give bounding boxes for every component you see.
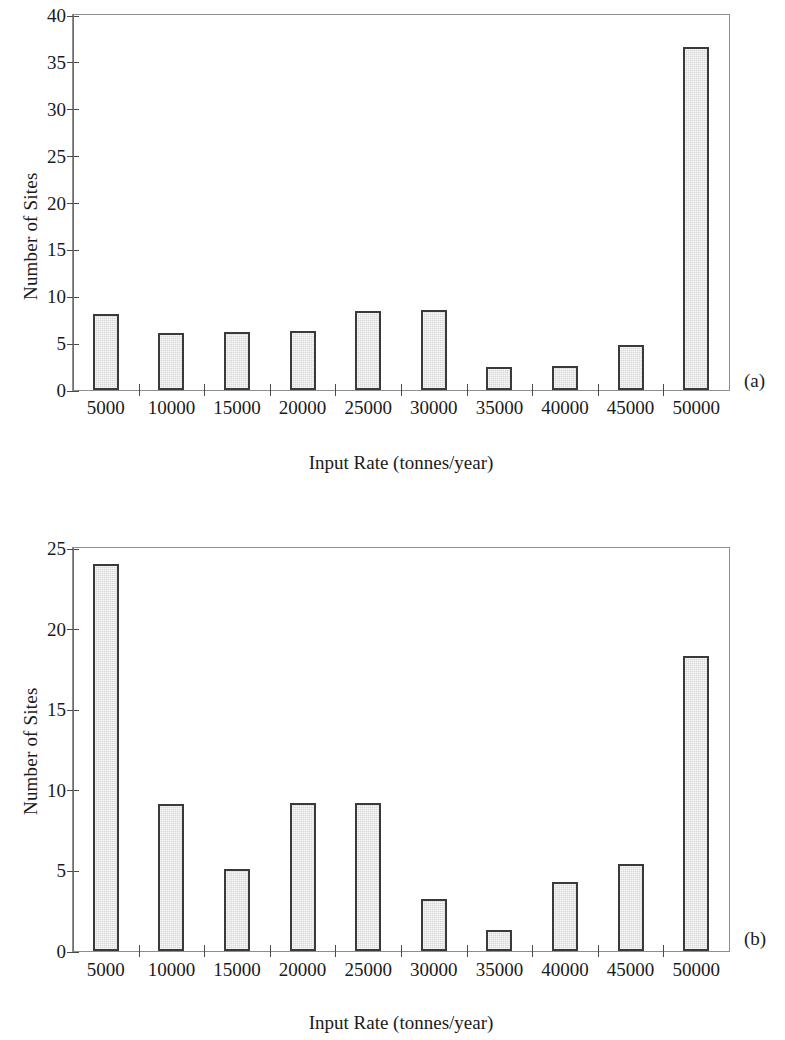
bar [683, 656, 709, 951]
bar [421, 899, 447, 951]
y-tick-mark [67, 391, 79, 392]
y-axis-tick-labels-a: 0510152025303540 [22, 14, 66, 391]
bar-series-a [73, 15, 729, 390]
y-tick-mark [67, 952, 79, 953]
x-tick-mark [335, 945, 336, 957]
bar [552, 366, 578, 390]
y-tick-label: 40 [47, 6, 66, 25]
y-axis-line [73, 15, 74, 390]
y-tick-label: 35 [47, 52, 66, 71]
y-tick-label: 30 [47, 99, 66, 118]
x-tick-label: 20000 [279, 960, 327, 979]
x-tick-label: 40000 [541, 960, 589, 979]
x-tick-label: 45000 [607, 398, 655, 417]
y-tick-label: 20 [47, 193, 66, 212]
x-axis-title-a: Input Rate (tonnes/year) [309, 452, 494, 474]
bar [683, 47, 709, 390]
y-tick-label: 15 [47, 240, 66, 259]
bar [224, 332, 250, 390]
bar [618, 864, 644, 951]
bar [486, 367, 512, 390]
x-tick-mark [467, 945, 468, 957]
bar [355, 311, 381, 390]
x-tick-mark [663, 384, 664, 396]
bar [486, 930, 512, 951]
x-tick-label: 50000 [672, 960, 720, 979]
plot-area-b [72, 547, 730, 952]
panel-a: Number of Sites 0510152025303540 5000100… [0, 0, 785, 500]
y-tick-label: 10 [47, 780, 66, 799]
panel-label-a: (a) [744, 370, 765, 392]
x-tick-label: 10000 [148, 960, 196, 979]
x-tick-label: 10000 [148, 398, 196, 417]
panel-b: Number of Sites 0510152025 5000100001500… [0, 520, 785, 1040]
y-tick-label: 10 [47, 287, 66, 306]
y-tick-label: 5 [57, 861, 67, 880]
x-axis-title-b: Input Rate (tonnes/year) [309, 1012, 494, 1034]
x-tick-mark [532, 384, 533, 396]
x-tick-mark [532, 945, 533, 957]
y-axis-line [73, 548, 74, 951]
x-tick-mark [139, 384, 140, 396]
panel-label-b: (b) [744, 928, 766, 950]
bar [355, 803, 381, 951]
y-tick-label: 15 [47, 700, 66, 719]
x-tick-label: 15000 [213, 398, 261, 417]
figure-two-histograms: Number of Sites 0510152025303540 5000100… [0, 0, 785, 1040]
x-tick-mark [467, 384, 468, 396]
x-tick-mark [335, 384, 336, 396]
x-tick-label: 5000 [87, 960, 125, 979]
bar [290, 331, 316, 390]
x-tick-label: 30000 [410, 398, 458, 417]
plot-area-a [72, 14, 730, 391]
x-tick-label: 45000 [607, 960, 655, 979]
y-tick-label: 20 [47, 619, 66, 638]
y-tick-label: 5 [57, 334, 67, 353]
x-tick-mark [598, 945, 599, 957]
x-tick-label: 20000 [279, 398, 327, 417]
x-tick-mark [401, 945, 402, 957]
x-tick-label: 25000 [344, 398, 392, 417]
bar [93, 314, 119, 390]
x-tick-label: 35000 [476, 960, 524, 979]
bar [158, 804, 184, 951]
bar [618, 345, 644, 390]
y-axis-tick-labels-b: 0510152025 [22, 547, 66, 952]
x-tick-label: 35000 [476, 398, 524, 417]
x-tick-mark [598, 384, 599, 396]
bar-series-b [73, 548, 729, 951]
x-tick-mark [204, 384, 205, 396]
bar [224, 869, 250, 951]
x-tick-mark [663, 945, 664, 957]
y-tick-label: 25 [47, 539, 66, 558]
y-tick-label: 0 [57, 942, 67, 961]
x-tick-mark [139, 945, 140, 957]
x-tick-label: 50000 [672, 398, 720, 417]
x-tick-label: 5000 [87, 398, 125, 417]
y-tick-label: 25 [47, 146, 66, 165]
x-tick-label: 15000 [213, 960, 261, 979]
x-tick-mark [270, 384, 271, 396]
bar [552, 882, 578, 951]
y-tick-label: 0 [57, 381, 67, 400]
bar [93, 564, 119, 951]
x-tick-mark [270, 945, 271, 957]
bar [421, 310, 447, 390]
bar [158, 333, 184, 390]
x-tick-label: 30000 [410, 960, 458, 979]
bar [290, 803, 316, 951]
x-tick-mark [204, 945, 205, 957]
x-tick-label: 25000 [344, 960, 392, 979]
x-tick-label: 40000 [541, 398, 589, 417]
x-tick-mark [401, 384, 402, 396]
